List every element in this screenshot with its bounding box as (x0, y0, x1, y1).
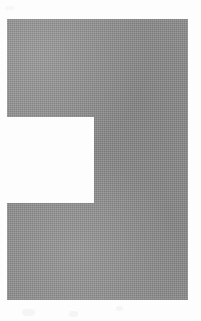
image-canvas: Abstract gray geometric block with a rec… (0, 0, 201, 321)
